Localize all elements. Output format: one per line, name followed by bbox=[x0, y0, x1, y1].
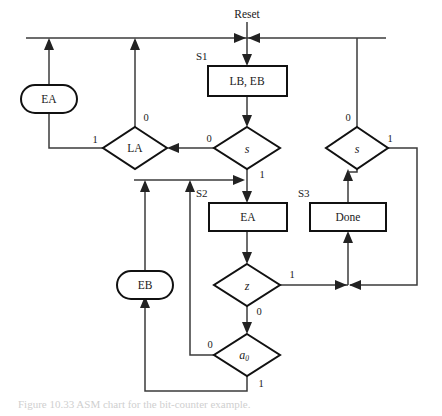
edge-label-a0-0: 0 bbox=[207, 339, 212, 350]
edge-label-s-left-0: 0 bbox=[206, 133, 211, 144]
arrowhead-sright1-into-s3-junction bbox=[349, 280, 361, 290]
decision-label-s-right: s bbox=[355, 142, 360, 156]
state-name-s2: S2 bbox=[196, 187, 208, 199]
text-layer: Reset S1 S2 S3 LB, EB EA Done EA EB LA s… bbox=[41, 8, 392, 390]
edge-label-s-right-1: 1 bbox=[387, 133, 392, 144]
decision-label-a0-subscript: 0 bbox=[245, 354, 249, 363]
arrowhead-la-0-into-bus bbox=[130, 38, 140, 50]
edge-label-la-1: 1 bbox=[92, 134, 97, 145]
edge-label-s-left-1: 1 bbox=[259, 169, 264, 180]
arrowhead-z1-into-s3-junction bbox=[335, 280, 347, 290]
arrowhead-return-left-into-junction bbox=[234, 33, 246, 43]
decision-label-s-left: s bbox=[245, 142, 250, 156]
arrowhead-into-s3 bbox=[343, 231, 353, 243]
state-output-s2: EA bbox=[240, 211, 256, 223]
asm-chart-canvas: Reset S1 S2 S3 LB, EB EA Done EA EB LA s… bbox=[0, 0, 442, 416]
arrowhead-a0-0-into-bus bbox=[185, 180, 195, 192]
state-output-s3: Done bbox=[336, 211, 361, 223]
state-name-s3: S3 bbox=[298, 187, 310, 199]
arrowhead-return-right-into-junction bbox=[248, 33, 260, 43]
arrowhead-s3-into-s-right bbox=[343, 169, 353, 181]
decision-label-la: LA bbox=[127, 142, 143, 154]
figure-caption: Figure 10.33 ASM chart for the bit-count… bbox=[18, 398, 428, 410]
reset-label: Reset bbox=[234, 8, 260, 20]
shape-layer bbox=[21, 66, 388, 376]
conditional-output-label-eb: EB bbox=[138, 279, 153, 291]
arrowhead-eb-cond-into-bus bbox=[140, 180, 150, 192]
state-name-s1: S1 bbox=[196, 50, 208, 62]
arrowhead-z0-into-a0 bbox=[242, 322, 252, 334]
arrowhead-s2-to-z bbox=[242, 252, 252, 264]
edge-label-a0-1: 1 bbox=[258, 378, 263, 389]
edge-label-z-1: 1 bbox=[289, 269, 294, 280]
arrowhead-reset-into-s1 bbox=[242, 54, 252, 66]
conditional-output-label-ea: EA bbox=[41, 93, 57, 105]
state-output-s1: LB, EB bbox=[229, 75, 264, 88]
arrowhead-s1-to-s-left bbox=[242, 115, 252, 127]
edge-label-z-0: 0 bbox=[256, 306, 261, 317]
arrowhead-loop-return-into-main bbox=[233, 175, 245, 185]
arrowhead-into-s2 bbox=[242, 191, 252, 203]
asm-chart-figure: Reset S1 S2 S3 LB, EB EA Done EA EB LA s… bbox=[0, 0, 442, 416]
edge-label-s-right-0: 0 bbox=[345, 112, 350, 123]
wire-s3-jog-to-diamond bbox=[348, 169, 357, 172]
edge-label-la-0: 0 bbox=[143, 112, 148, 123]
arrowhead-ea-cond-into-bus bbox=[44, 38, 54, 50]
decision-label-z: z bbox=[244, 279, 250, 293]
